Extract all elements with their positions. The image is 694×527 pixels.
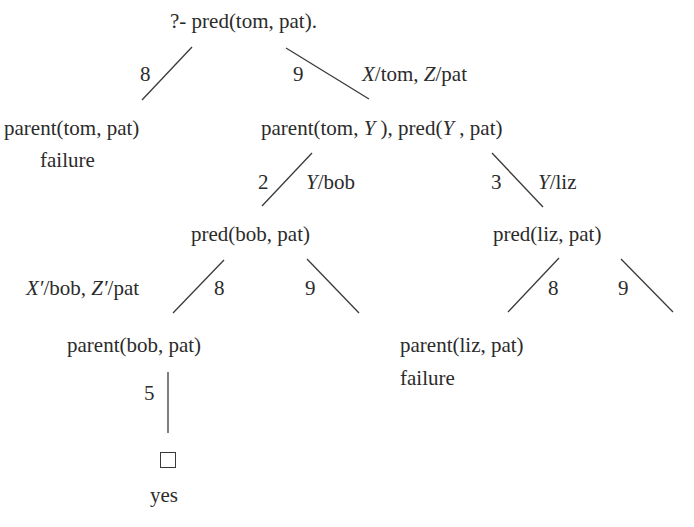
failure-label: failure bbox=[400, 366, 455, 390]
substitution-label: Y/liz bbox=[538, 170, 577, 194]
clause-label: 9 bbox=[618, 276, 629, 300]
root-goal: ?- pred(tom, pat). bbox=[170, 9, 317, 33]
clause-label: 9 bbox=[293, 62, 304, 86]
node-parent-tom-pat: parent(tom, pat) bbox=[4, 116, 139, 140]
success-label: yes bbox=[150, 483, 178, 507]
substitution-label: X′/bob, Z′/pat bbox=[26, 276, 139, 300]
clause-label: 8 bbox=[214, 276, 225, 300]
node-pred-liz-pat: pred(liz, pat) bbox=[493, 222, 601, 246]
edge-liz-9 bbox=[621, 259, 673, 312]
node-parent-bob-pat: parent(bob, pat) bbox=[67, 333, 201, 357]
clause-label: 8 bbox=[140, 62, 151, 86]
tree-edges bbox=[0, 0, 694, 527]
edge-right1-bob bbox=[262, 153, 312, 206]
substitution-label: Y/bob bbox=[306, 170, 355, 194]
clause-label: 2 bbox=[258, 170, 269, 194]
clause-label: 8 bbox=[548, 276, 559, 300]
node-parent-liz-pat: parent(liz, pat) bbox=[400, 333, 524, 357]
empty-clause-box-icon bbox=[160, 452, 176, 468]
node-parent-tom-Y-pred-Y-pat: parent(tom, Y ), pred(Y , pat) bbox=[261, 116, 502, 140]
failure-label: failure bbox=[40, 148, 95, 172]
substitution-label: X/tom, Z/pat bbox=[362, 62, 467, 86]
clause-label: 9 bbox=[305, 276, 316, 300]
node-pred-bob-pat: pred(bob, pat) bbox=[191, 222, 310, 246]
clause-label: 5 bbox=[144, 381, 155, 405]
clause-label: 3 bbox=[491, 170, 502, 194]
